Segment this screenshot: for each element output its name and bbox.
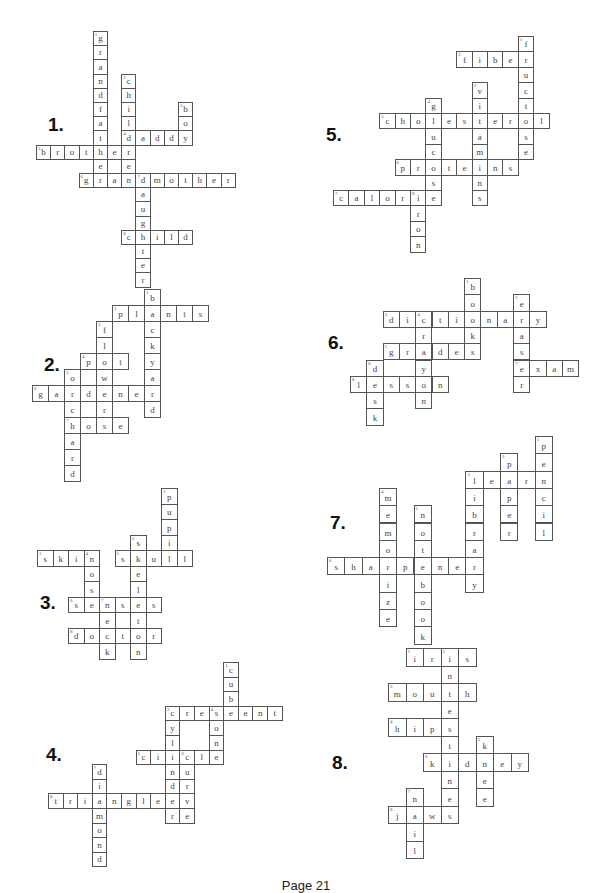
crossword-cell[interactable]: r — [179, 779, 195, 795]
crossword-cell[interactable]: h — [458, 683, 477, 702]
crossword-cell[interactable]: z — [379, 592, 397, 610]
crossword-cell[interactable]: 6p — [395, 159, 411, 175]
crossword-cell[interactable]: a — [472, 128, 488, 144]
crossword-cell[interactable]: n — [112, 385, 129, 402]
crossword-cell[interactable]: a — [546, 360, 563, 377]
crossword-cell[interactable]: s — [458, 648, 477, 667]
crossword-cell[interactable]: r — [221, 173, 236, 188]
crossword-cell[interactable]: a — [144, 369, 161, 386]
crossword-cell[interactable]: r — [502, 113, 518, 129]
crossword-cell[interactable]: y — [465, 574, 483, 592]
crossword-cell[interactable]: e — [448, 343, 465, 360]
crossword-cell[interactable]: s — [513, 343, 530, 360]
crossword-cell[interactable]: s — [464, 343, 481, 360]
crossword-cell[interactable]: t — [115, 628, 132, 645]
crossword-cell[interactable]: l — [121, 116, 136, 131]
crossword-cell[interactable]: t — [441, 736, 460, 755]
crossword-cell[interactable]: r — [513, 376, 530, 393]
crossword-cell[interactable]: n — [106, 793, 122, 809]
crossword-cell[interactable]: 7h — [64, 417, 81, 434]
crossword-cell[interactable]: i — [77, 793, 93, 809]
crossword-cell[interactable]: n — [130, 643, 147, 660]
crossword-cell[interactable]: p — [500, 488, 518, 506]
crossword-cell[interactable]: e — [456, 159, 472, 175]
crossword-cell[interactable]: 2e — [513, 294, 530, 311]
crossword-cell[interactable]: r — [93, 173, 108, 188]
crossword-cell[interactable]: 4d — [121, 130, 136, 145]
crossword-cell[interactable]: m — [472, 144, 488, 160]
crossword-cell[interactable]: 4g — [425, 98, 441, 114]
crossword-cell[interactable]: o — [92, 823, 108, 839]
crossword-cell[interactable]: e — [194, 706, 210, 722]
crossword-cell[interactable]: w — [423, 806, 442, 825]
crossword-cell[interactable]: r — [63, 793, 79, 809]
crossword-cell[interactable]: a — [93, 116, 108, 131]
crossword-cell[interactable]: o — [414, 523, 432, 541]
crossword-cell[interactable]: i — [150, 230, 165, 245]
crossword-cell[interactable]: c — [99, 628, 116, 645]
crossword-cell[interactable]: l — [165, 735, 181, 751]
crossword-cell[interactable]: w — [96, 369, 113, 386]
crossword-cell[interactable]: o — [64, 145, 79, 160]
crossword-cell[interactable]: e — [107, 145, 122, 160]
crossword-cell[interactable]: n — [535, 471, 553, 489]
crossword-cell[interactable]: h — [93, 145, 108, 160]
crossword-cell[interactable]: 6d — [366, 360, 383, 377]
crossword-cell[interactable]: s — [192, 305, 209, 322]
crossword-cell[interactable]: r — [93, 45, 108, 60]
crossword-cell[interactable]: n — [209, 735, 225, 751]
crossword-cell[interactable]: i — [379, 574, 397, 592]
crossword-cell[interactable]: t — [130, 612, 147, 629]
crossword-cell[interactable]: r — [179, 706, 195, 722]
crossword-cell[interactable]: 5c — [136, 750, 152, 766]
crossword-cell[interactable]: o — [80, 417, 97, 434]
crossword-cell[interactable]: 7d — [92, 764, 108, 780]
crossword-cell[interactable]: t — [441, 683, 460, 702]
crossword-cell[interactable]: s — [146, 597, 163, 614]
crossword-cell[interactable]: 3c — [165, 706, 181, 722]
crossword-cell[interactable]: 8l — [350, 376, 367, 393]
crossword-cell[interactable]: r — [513, 311, 530, 328]
crossword-cell[interactable]: o — [415, 376, 432, 393]
crossword-cell[interactable]: t — [472, 113, 488, 129]
crossword-cell[interactable]: l — [136, 793, 152, 809]
crossword-cell[interactable]: 4h — [388, 718, 407, 737]
crossword-cell[interactable]: n — [472, 175, 488, 191]
crossword-cell[interactable]: a — [135, 187, 150, 202]
crossword-cell[interactable]: o — [84, 566, 101, 583]
crossword-cell[interactable]: n — [165, 764, 181, 780]
crossword-cell[interactable]: o — [425, 159, 441, 175]
crossword-cell[interactable]: t — [518, 98, 534, 114]
crossword-cell[interactable]: r — [135, 272, 150, 287]
crossword-cell[interactable]: i — [406, 718, 425, 737]
crossword-cell[interactable]: u — [146, 550, 163, 567]
crossword-cell[interactable]: k — [144, 337, 161, 354]
crossword-cell[interactable]: 1p — [535, 436, 553, 454]
crossword-cell[interactable]: 6s — [68, 597, 85, 614]
crossword-cell[interactable]: a — [93, 59, 108, 74]
crossword-cell[interactable]: u — [423, 683, 442, 702]
crossword-cell[interactable]: h — [344, 557, 362, 575]
crossword-cell[interactable]: r — [399, 343, 416, 360]
crossword-cell[interactable]: e — [379, 505, 397, 523]
crossword-cell[interactable]: a — [92, 793, 108, 809]
crossword-cell[interactable]: 5k — [476, 736, 495, 755]
crossword-cell[interactable]: e — [379, 609, 397, 627]
crossword-cell[interactable]: 4c — [415, 311, 432, 328]
crossword-cell[interactable]: e — [93, 159, 108, 174]
crossword-cell[interactable]: h — [135, 230, 150, 245]
crossword-cell[interactable]: n — [121, 173, 136, 188]
crossword-cell[interactable]: 3f — [96, 321, 113, 338]
crossword-cell[interactable]: n — [487, 159, 503, 175]
crossword-cell[interactable]: l — [128, 305, 145, 322]
crossword-cell[interactable]: 4s — [209, 706, 225, 722]
crossword-cell[interactable]: e — [483, 471, 501, 489]
crossword-cell[interactable]: n — [415, 392, 432, 409]
crossword-cell[interactable]: 2c — [121, 74, 136, 89]
crossword-cell[interactable]: p — [396, 557, 414, 575]
crossword-cell[interactable]: a — [107, 173, 122, 188]
crossword-cell[interactable]: b — [487, 51, 503, 67]
crossword-cell[interactable]: e — [476, 788, 495, 807]
crossword-cell[interactable]: a — [135, 130, 150, 145]
crossword-cell[interactable]: y — [415, 360, 432, 377]
